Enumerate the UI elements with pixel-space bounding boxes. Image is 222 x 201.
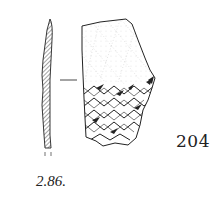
profile-section bbox=[42, 19, 52, 156]
sherd-face bbox=[80, 18, 160, 146]
sherd-drawing bbox=[0, 0, 222, 201]
catalogue-number: 204 bbox=[176, 131, 210, 151]
figure-label: 2.86. bbox=[36, 173, 66, 190]
